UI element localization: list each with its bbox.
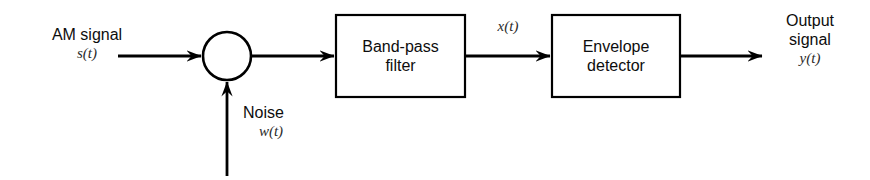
envelope-detector-line-2: detector [587, 56, 645, 75]
am-signal-label: AM signal [22, 26, 152, 45]
summing-junction-circle [203, 32, 251, 80]
output-signal-line-2: signal [762, 31, 858, 50]
envelope-detector-label: Envelope detector [552, 15, 680, 97]
signal-label-xt: x(t) [477, 18, 539, 36]
noise-symbol: w(t) [243, 123, 299, 141]
am-signal-label-group: AM signal s(t) [22, 26, 152, 63]
noise-label: Noise [243, 104, 317, 123]
am-receiver-block-diagram: AM signal s(t) Noise w(t) Band-pass filt… [0, 0, 870, 180]
output-signal-line-1: Output [762, 12, 858, 31]
band-pass-filter-label: Band-pass filter [336, 15, 465, 97]
am-signal-symbol: s(t) [22, 45, 152, 63]
output-signal-symbol: y(t) [762, 50, 858, 68]
output-signal-label-group: Output signal y(t) [762, 12, 858, 67]
noise-label-group: Noise w(t) [243, 104, 317, 141]
band-pass-filter-line-2: filter [385, 56, 415, 75]
envelope-detector-line-1: Envelope [583, 37, 650, 56]
band-pass-filter-line-1: Band-pass [362, 37, 439, 56]
